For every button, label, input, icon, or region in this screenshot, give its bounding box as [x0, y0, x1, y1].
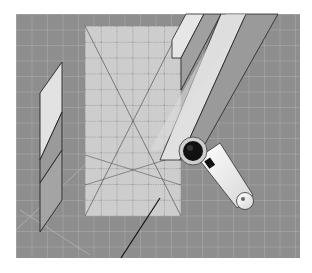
quilting-illustration — [0, 0, 312, 273]
